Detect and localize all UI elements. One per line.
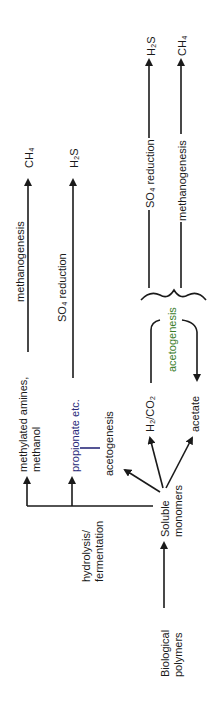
node-h2s-right: H₂S [145, 36, 157, 56]
node-acetate: acetate [189, 396, 201, 432]
label-acetogenesis-right: acetogenesis [166, 307, 178, 372]
svg-text:monomers: monomers [172, 485, 184, 537]
node-propionate: propionate etc. [69, 399, 81, 472]
arrow-monomers-to-acetate [166, 438, 192, 488]
svg-text:hydrolysis/: hydrolysis/ [80, 529, 92, 582]
svg-text:Soluble: Soluble [159, 500, 171, 537]
node-soluble-monomers: Soluble monomers [159, 485, 184, 537]
svg-text:methylated amines,: methylated amines, [17, 377, 29, 472]
node-ch4-right: CH₄ [176, 35, 188, 56]
node-ch4-left: CH₄ [23, 147, 35, 168]
label-methanogenesis-left: methanogenesis [14, 221, 26, 302]
svg-text:Biological: Biological [159, 630, 171, 677]
node-h2s-left: H₂S [68, 148, 80, 168]
arrow-monomers-to-h2co2 [150, 438, 163, 488]
pathway-diagram: Biological polymers Soluble monomers hyd… [0, 0, 209, 708]
acetogenesis-bracket-left [151, 320, 160, 383]
label-acetogenesis-left: acetogenesis [103, 411, 115, 476]
svg-text:fermentation: fermentation [93, 521, 105, 582]
arrow-monomers-to-acetogenesis [125, 470, 160, 492]
label-so4-reduction-left: SO₄ reduction [56, 253, 68, 322]
acetogenesis-bracket-right [182, 320, 197, 380]
label-hydrolysis: hydrolysis/ fermentation [80, 521, 105, 582]
node-h2co2: H₂/CO₂ [144, 396, 156, 432]
node-methylated-amines: methylated amines, methanol [17, 377, 42, 472]
svg-text:polymers: polymers [172, 632, 184, 677]
brace [141, 290, 206, 300]
label-so4-reduction-right: SO₄ reduction [144, 139, 156, 208]
node-biological-polymers: Biological polymers [159, 630, 184, 677]
svg-text:methanol: methanol [30, 427, 42, 472]
label-methanogenesis-right: methanogenesis [176, 140, 188, 221]
